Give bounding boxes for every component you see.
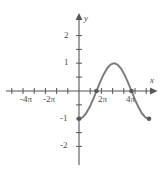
x-tick-label-2pi: 2π	[98, 95, 107, 104]
point-intercept-pi	[94, 89, 99, 94]
point-right-endpoint	[147, 117, 152, 122]
x-axis-label: x	[150, 76, 154, 85]
y-axis-arrowhead	[76, 13, 83, 20]
point-intercept-3pi	[129, 89, 134, 94]
marked-points	[77, 89, 152, 121]
point-left-endpoint	[77, 117, 82, 122]
graph-figure: -4π -2π 2π 4π 2 1 -1 -2 x y	[0, 0, 165, 171]
y-tick-label-neg2: -2	[60, 141, 68, 150]
x-tick-label-neg2pi: -2π	[43, 95, 55, 104]
x-axis-arrowhead	[150, 88, 158, 95]
y-tick-label-2: 2	[64, 31, 69, 40]
y-tick-label-1: 1	[64, 58, 69, 67]
y-axis-label: y	[84, 14, 88, 23]
coordinate-plane	[0, 0, 165, 171]
y-tick-label-neg1: -1	[60, 114, 68, 123]
x-tick-label-neg4pi: -4π	[20, 95, 32, 104]
x-tick-label-4pi: 4π	[126, 95, 135, 104]
